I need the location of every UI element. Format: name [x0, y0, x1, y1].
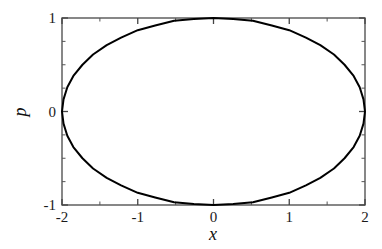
x-axis-title: x	[208, 224, 217, 244]
y-tick-label: 0	[49, 104, 57, 120]
x-tick-label: -1	[132, 209, 145, 225]
y-tick-label: 1	[49, 10, 57, 26]
y-tick-label: -1	[44, 197, 57, 213]
x-tick-label: 2	[361, 209, 369, 225]
x-tick-label: 0	[210, 209, 218, 225]
chart-figure: -2-1012 -101 x p	[0, 0, 382, 249]
phase-space-plot: -2-1012 -101 x p	[0, 0, 382, 249]
y-axis-title: p	[10, 108, 30, 119]
x-tick-label: 1	[286, 209, 294, 225]
x-tick-label: -2	[56, 209, 69, 225]
